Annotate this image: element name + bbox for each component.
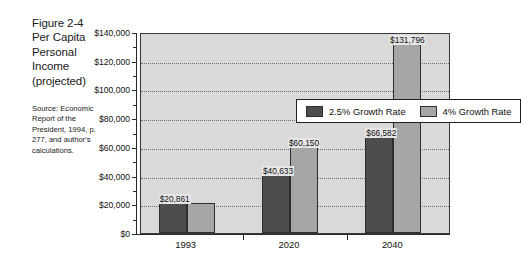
x-axis-label-2040: 2040 bbox=[382, 239, 403, 250]
y-tick-label-2: $40,000 bbox=[68, 172, 130, 182]
chart-legend: 2.5% Growth Rate 4% Growth Rate bbox=[296, 99, 521, 123]
x-axis-label-1993: 1993 bbox=[175, 239, 196, 250]
y-tick-label-6: $120,000 bbox=[68, 57, 130, 67]
y-tick-mark-6 bbox=[132, 62, 137, 63]
bar-value-label-2020-series-1: $60,150 bbox=[288, 138, 320, 148]
legend-label-series-1: 4% Growth Rate bbox=[443, 106, 512, 117]
y-tick-label-0: $0 bbox=[68, 229, 130, 239]
legend-swatch-icon-series-1 bbox=[420, 106, 437, 117]
legend-swatch-icon-series-0 bbox=[306, 106, 323, 117]
x-tick-mark-1 bbox=[243, 235, 244, 240]
bar-value-label-2040-series-1: $131,796 bbox=[389, 35, 426, 45]
y-tick-label-4: $80,000 bbox=[68, 114, 130, 124]
y-tick-minor-5 bbox=[133, 76, 137, 77]
bar-value-label-2040-series-0: $66,582 bbox=[365, 128, 397, 138]
bar-1993-series-1 bbox=[187, 203, 215, 233]
y-tick-mark-4 bbox=[132, 119, 137, 120]
y-tick-label-5: $100,000 bbox=[68, 85, 130, 95]
y-tick-mark-5 bbox=[132, 90, 137, 91]
y-tick-minor-0 bbox=[133, 220, 137, 221]
y-tick-mark-0 bbox=[132, 234, 137, 235]
bar-1993-series-0 bbox=[159, 203, 187, 233]
y-tick-mark-1 bbox=[132, 205, 137, 206]
y-tick-minor-2 bbox=[133, 162, 137, 163]
y-tick-mark-2 bbox=[132, 177, 137, 178]
y-tick-label-7: $140,000 bbox=[68, 28, 130, 38]
y-tick-mark-7 bbox=[132, 33, 137, 34]
bar-value-label-1993-series-0: $20,861 bbox=[159, 194, 191, 204]
x-tick-mark-2 bbox=[347, 235, 348, 240]
bar-value-label-2020-series-0: $40,633 bbox=[262, 166, 294, 176]
legend-entry-1: 4% Growth Rate bbox=[420, 106, 512, 117]
bar-2040-series-0 bbox=[365, 137, 393, 233]
y-tick-minor-6 bbox=[133, 47, 137, 48]
y-tick-minor-1 bbox=[133, 191, 137, 192]
y-tick-label-1: $20,000 bbox=[68, 200, 130, 210]
y-tick-minor-4 bbox=[133, 105, 137, 106]
legend-entry-0: 2.5% Growth Rate bbox=[306, 106, 406, 117]
legend-label-series-0: 2.5% Growth Rate bbox=[329, 106, 406, 117]
y-tick-mark-3 bbox=[132, 148, 137, 149]
chart-plot-area: $20,861$40,633$60,150$66,582$131,796 2.5… bbox=[140, 33, 450, 234]
bar-2040-series-1 bbox=[393, 44, 421, 233]
y-tick-label-3: $60,000 bbox=[68, 143, 130, 153]
bar-2020-series-1 bbox=[290, 147, 318, 233]
y-tick-minor-3 bbox=[133, 134, 137, 135]
x-axis-label-2020: 2020 bbox=[279, 239, 300, 250]
figure-title: Figure 2-4 Per Capita Personal Income (p… bbox=[32, 16, 110, 88]
bar-2020-series-0 bbox=[262, 175, 290, 233]
x-axis-line bbox=[136, 234, 450, 235]
